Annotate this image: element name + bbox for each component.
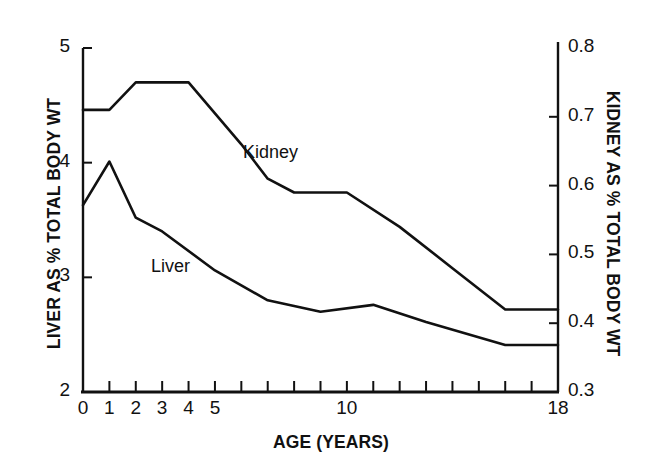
y-tick-label-right: 0.5 [568, 241, 618, 263]
right-axis-ticks [549, 117, 558, 323]
y-tick-label-left: 5 [30, 35, 70, 57]
chart-figure: LIVER AS % TOTAL BODY WT KIDNEY AS % TOT… [0, 0, 662, 463]
left-axis-title: LIVER AS % TOTAL BODY WT [44, 74, 65, 374]
x-axis-title: AGE (YEARS) [0, 432, 662, 453]
x-tick-label: 18 [538, 397, 578, 419]
y-tick-label-left: 3 [30, 264, 70, 286]
y-tick-label-left: 4 [30, 150, 70, 172]
left-axis-ticks [83, 48, 92, 277]
series-label-liver: Liver [151, 256, 190, 277]
y-tick-label-right: 0.6 [568, 173, 618, 195]
x-axis-ticks [83, 381, 558, 392]
y-tick-label-right: 0.8 [568, 35, 618, 57]
y-tick-label-right: 0.7 [568, 104, 618, 126]
series-label-kidney: Kidney [243, 142, 298, 163]
chart-plot-area [0, 0, 662, 463]
x-tick-label: 5 [195, 397, 235, 419]
series-line-liver [83, 162, 558, 345]
x-tick-label: 10 [327, 397, 367, 419]
y-tick-label-right: 0.4 [568, 310, 618, 332]
